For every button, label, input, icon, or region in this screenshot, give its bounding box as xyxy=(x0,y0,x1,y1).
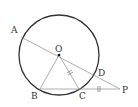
label-c: C xyxy=(79,91,86,101)
label-a: A xyxy=(10,25,18,35)
segment-ob xyxy=(40,55,59,89)
geometry-diagram: A O B C D P xyxy=(0,0,138,107)
center-point-o xyxy=(58,54,61,57)
segment-ap xyxy=(21,37,120,89)
label-p: P xyxy=(122,85,128,95)
label-b: B xyxy=(31,91,38,101)
label-d: D xyxy=(98,68,105,78)
label-o: O xyxy=(55,44,62,54)
